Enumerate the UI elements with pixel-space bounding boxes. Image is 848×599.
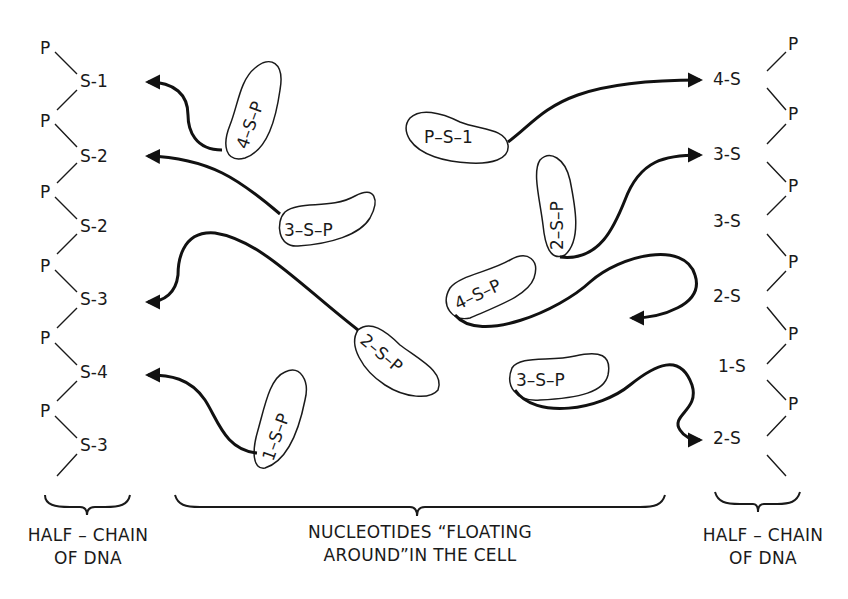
nucleotide-label: P–S–1: [424, 127, 473, 147]
left-p-4: P: [40, 256, 50, 276]
right-p-5: P: [788, 324, 798, 344]
right-brace: [715, 492, 800, 512]
right-caption-line1: HALF – CHAIN: [703, 525, 824, 545]
right-base-4: 2-S: [713, 286, 741, 306]
arrow-to-left-S3: [148, 233, 358, 330]
left-base-1: S-1: [80, 71, 108, 91]
left-p-3: P: [40, 182, 50, 202]
right-p-1: P: [788, 34, 798, 54]
dna-replication-diagram: P P P P P P S-1 S-2 S-2 S-3 S-4 S-3 P P …: [0, 0, 848, 599]
right-base-6: 2-S: [713, 428, 741, 448]
right-half-chain: P P P P P P 4-S 3-S 3-S 2-S 1-S 2-S: [713, 34, 798, 476]
right-base-1: 4-S: [713, 69, 741, 89]
left-p-1: P: [40, 38, 50, 58]
right-caption-line2: OF DNA: [729, 548, 797, 568]
middle-caption-line2: AROUND”IN THE CELL: [324, 545, 517, 565]
left-caption-line1: HALF – CHAIN: [28, 525, 149, 545]
arrow-to-left-S4: [148, 375, 257, 453]
nucleotide-2SP-right: 2–S–P: [537, 156, 576, 257]
arrow-to-right-4S: [508, 80, 700, 142]
right-p-4: P: [788, 252, 798, 272]
right-p-3: P: [788, 176, 798, 196]
right-p-2: P: [788, 104, 798, 124]
left-base-3: S-2: [80, 216, 108, 236]
left-base-4: S-3: [80, 289, 108, 309]
right-base-5: 1-S: [718, 356, 746, 376]
arrow-to-left-S1: [148, 82, 222, 150]
arrow-to-left-S2: [148, 156, 280, 214]
nucleotide-4SP-left: 4–S–P: [226, 62, 281, 159]
left-half-chain: P P P P P P S-1 S-2 S-2 S-3 S-4 S-3: [40, 38, 108, 476]
left-p-6: P: [40, 401, 50, 421]
nucleotide-2SP-left: 2–S–P: [355, 326, 439, 396]
nucleotide-3SP-left: 3–S–P: [279, 192, 375, 246]
middle-brace: [175, 495, 665, 516]
nucleotide-label: 2–S–P: [547, 201, 567, 250]
nucleotide-label: 3–S–P: [516, 370, 565, 390]
left-brace: [45, 495, 130, 515]
left-base-6: S-3: [80, 435, 108, 455]
left-base-2: S-2: [80, 146, 108, 166]
right-p-6: P: [788, 394, 798, 414]
left-p-5: P: [40, 328, 50, 348]
nucleotide-3SP-right: 3–S–P: [510, 354, 609, 401]
left-base-5: S-4: [80, 362, 108, 382]
braces: [45, 492, 800, 516]
nucleotide-1SP-left: 1–S–P: [254, 370, 306, 468]
left-p-2: P: [40, 111, 50, 131]
left-caption-line2: OF DNA: [54, 548, 122, 568]
right-base-3: 3-S: [713, 211, 741, 231]
middle-caption-line1: NUCLEOTIDES “FLOATING: [308, 522, 532, 542]
arrow-to-right-3S: [560, 155, 700, 257]
right-base-2: 3-S: [713, 144, 741, 164]
nucleotide-PS1-right: P–S–1: [406, 112, 508, 163]
nucleotide-label: 3–S–P: [284, 220, 333, 240]
nucleotide-4SP-right: 4–S–P: [446, 256, 535, 319]
